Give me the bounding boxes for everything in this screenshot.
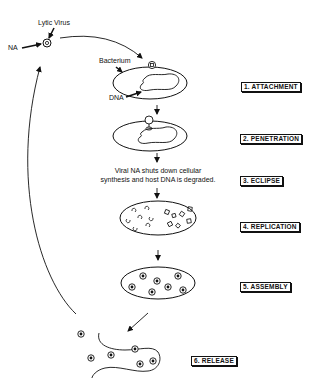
na-pointer: [22, 44, 41, 48]
eclipse-note-line2: synthesis and host DNA is degraded.: [88, 175, 228, 184]
lytic-virus-pointer: [49, 28, 54, 38]
penetration-bacterium: [113, 116, 187, 151]
free-virus: [43, 39, 51, 47]
step-release: 6. RELEASE: [191, 356, 237, 366]
replication-bacterium: [120, 201, 196, 235]
dna-label: DNA: [109, 94, 124, 102]
step-penetration: 2. PENETRATION: [240, 134, 302, 144]
eclipse-description: Viral NA shuts down cellular synthesis a…: [88, 166, 228, 184]
step-eclipse: 3. ECLIPSE: [240, 176, 283, 186]
eclipse-note-line1: Viral NA shuts down cellular: [88, 166, 228, 175]
assembly-bacterium: [121, 267, 195, 299]
release-lysed-cell: [78, 331, 160, 378]
arrow-cycle-return: [28, 67, 76, 314]
step-attachment: 1. ATTACHMENT: [241, 82, 301, 92]
arrow-to-attachment: [60, 36, 142, 58]
lytic-virus-label: Lytic Virus: [38, 19, 70, 27]
bacterium-pointer: [116, 67, 122, 72]
bacterium-label: Bacterium: [99, 57, 131, 65]
attachment-bacterium: [113, 61, 187, 99]
arrow-to-release: [128, 313, 148, 331]
lytic-cycle-diagram: [0, 0, 322, 386]
na-label: NA: [8, 44, 18, 52]
step-replication: 4. REPLICATION: [240, 222, 300, 232]
step-assembly: 5. ASSEMBLY: [240, 282, 291, 292]
